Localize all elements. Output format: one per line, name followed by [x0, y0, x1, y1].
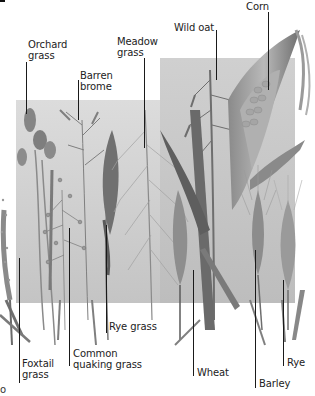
- leader-line-corn: [268, 12, 269, 90]
- leader-line-wheat: [193, 270, 194, 376]
- leader-line-common-quaking-grass: [69, 228, 70, 366]
- grass-illustration-figure: Orchard grass Barren brome Meadow grass …: [0, 0, 315, 396]
- label-corn: Corn: [246, 1, 269, 12]
- label-meadow-grass: Meadow grass: [117, 36, 158, 58]
- label-rye: Rye: [287, 357, 305, 368]
- label-orchard-grass-line2: grass: [28, 50, 67, 61]
- label-foxtail-grass: Foxtail grass: [22, 358, 54, 380]
- label-foxtail-grass-line1: Foxtail: [22, 358, 54, 369]
- label-barren-brome: Barren brome: [80, 70, 113, 92]
- leader-line-barren-brome: [78, 80, 79, 120]
- label-rye-grass-line1: Rye grass: [109, 321, 157, 332]
- label-orchard-grass: Orchard grass: [28, 39, 67, 61]
- leader-line-orchard-grass: [26, 62, 27, 114]
- label-common-quaking-grass-line1: Common: [73, 348, 142, 359]
- leader-line-foxtail-grass: [19, 258, 20, 383]
- label-common-quaking-grass: Common quaking grass: [73, 348, 142, 370]
- label-meadow-grass-line2: grass: [117, 47, 158, 58]
- leader-line-rye-grass: [106, 225, 107, 333]
- label-barren-brome-line1: Barren: [80, 70, 113, 81]
- label-corn-line1: Corn: [246, 1, 269, 12]
- label-barley-line1: Barley: [259, 378, 290, 389]
- label-common-quaking-grass-line2: quaking grass: [73, 359, 142, 370]
- label-barren-brome-line2: brome: [80, 81, 113, 92]
- leader-line-wild-oat: [216, 30, 217, 80]
- leader-line-barley: [255, 250, 256, 388]
- label-rye-grass: Rye grass: [109, 321, 157, 332]
- label-rye-line1: Rye: [287, 357, 305, 368]
- label-wild-oat-line1: Wild oat: [174, 22, 214, 33]
- corner-glyph: o: [0, 384, 6, 395]
- label-barley: Barley: [259, 378, 290, 389]
- label-orchard-grass-line1: Orchard: [28, 39, 67, 50]
- label-foxtail-grass-line2: grass: [22, 369, 54, 380]
- label-wild-oat: Wild oat: [174, 22, 214, 33]
- leader-line-rye: [283, 280, 284, 366]
- label-meadow-grass-line1: Meadow: [117, 36, 158, 47]
- grass-blades: [58, 300, 285, 345]
- label-wheat-line1: Wheat: [197, 367, 229, 378]
- leader-line-meadow-grass: [144, 58, 145, 148]
- label-wheat: Wheat: [197, 367, 229, 378]
